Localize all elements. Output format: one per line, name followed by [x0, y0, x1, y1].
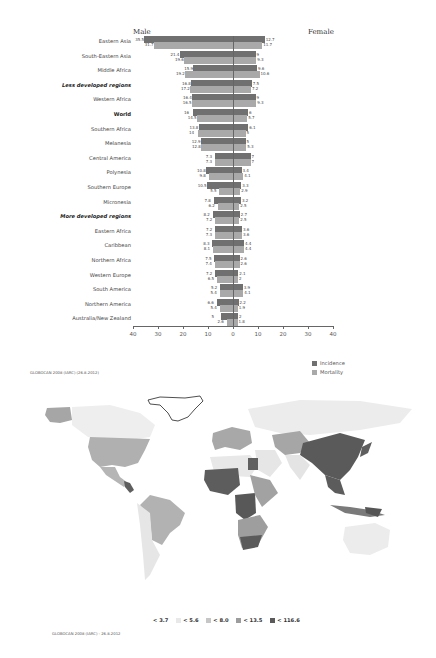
- x-tick-label: 10: [198, 331, 218, 337]
- map-legend: < 3.7 < 5.6 < 8.0 < 13.5 < 116.6: [146, 617, 300, 623]
- west-africa-shape: [204, 468, 240, 495]
- x-tick-label: 0: [223, 331, 243, 337]
- incidence-swatch-icon: [312, 361, 317, 366]
- female-mortality-value: 1.9: [239, 304, 245, 311]
- category-label: Western Africa: [93, 96, 131, 102]
- female-mortality-bar: [233, 86, 251, 93]
- russia-shape: [248, 400, 412, 435]
- category-label: More developed regions: [60, 213, 131, 219]
- male-mortality-bar: [184, 57, 233, 64]
- x-tick-label: 40: [323, 331, 343, 337]
- female-mortality-value: 4.1: [244, 289, 250, 296]
- pyramid-legend: Incidence Mortality: [312, 360, 345, 378]
- female-mortality-value: 9.3: [257, 56, 263, 63]
- mortality-swatch-icon: [312, 370, 317, 375]
- male-mortality-bar: [209, 173, 234, 180]
- female-mortality-value: 4.1: [244, 172, 250, 179]
- male-incidence-value: 35.5: [135, 36, 144, 43]
- male-mortality-bar: [192, 100, 233, 107]
- legend-swatch-2-icon: [176, 618, 181, 623]
- world-choropleth-map: [0, 395, 436, 600]
- male-label: Male: [133, 28, 151, 36]
- female-mortality-bar: [233, 42, 262, 49]
- category-label: World: [114, 111, 131, 117]
- category-label: Central America: [89, 155, 131, 161]
- male-mortality-value: 19.2: [176, 70, 185, 77]
- canada-shape: [72, 405, 155, 440]
- female-mortality-bar: [233, 144, 246, 151]
- central-america-shape: [124, 481, 134, 493]
- female-mortality-value: 2.9: [241, 187, 247, 194]
- category-label: Less developed regions: [62, 82, 131, 88]
- female-mortality-bar: [233, 246, 244, 253]
- female-mortality-value: 7: [252, 158, 255, 165]
- female-mortality-bar: [233, 173, 243, 180]
- male-mortality-value: 7.3: [206, 231, 212, 238]
- female-mortality-bar: [233, 188, 240, 195]
- category-label: Northern Africa: [92, 257, 131, 263]
- female-mortality-value: 2.6: [241, 260, 247, 267]
- female-mortality-value: 10.6: [261, 70, 270, 77]
- x-tick: [283, 326, 284, 329]
- category-label: South-Eastern Asia: [82, 53, 131, 59]
- female-mortality-value: 4.4: [245, 245, 251, 252]
- male-mortality-value: 17.2: [181, 85, 190, 92]
- male-mortality-value: 7.2: [206, 216, 212, 223]
- male-mortality-value: 14: [189, 129, 194, 136]
- south-africa-shape: [240, 535, 262, 550]
- male-mortality-bar: [220, 290, 234, 297]
- female-mortality-bar: [233, 71, 260, 78]
- male-mortality-value: 19.6: [175, 56, 184, 63]
- female-mortality-value: 9.3: [257, 99, 263, 106]
- zero-axis-line: [233, 36, 234, 327]
- male-mortality-bar: [215, 217, 233, 224]
- x-tick: [183, 326, 184, 329]
- female-label: Female: [308, 28, 334, 36]
- x-tick: [308, 326, 309, 329]
- legend-swatch-3-icon: [206, 618, 211, 623]
- female-mortality-value: 3.6: [243, 231, 249, 238]
- category-label: Southern Europe: [88, 184, 132, 190]
- female-mortality-value: 5.7: [248, 114, 254, 121]
- category-label: Eastern Africa: [95, 228, 131, 234]
- female-mortality-value: 1.8: [239, 318, 245, 325]
- category-label: Australia/New Zealand: [72, 315, 131, 321]
- legend-swatch-1-icon: [146, 618, 151, 623]
- male-mortality-value: 2.6: [218, 318, 224, 325]
- male-mortality-value: 5.5: [210, 187, 216, 194]
- usa-shape: [88, 437, 150, 467]
- female-incidence-value: 6.1: [249, 124, 255, 131]
- category-label: Southern Africa: [91, 126, 131, 132]
- x-tick: [158, 326, 159, 329]
- male-mortality-value: 12.8: [192, 143, 201, 150]
- male-mortality-bar: [219, 188, 233, 195]
- pyramid-credit: GLOBOCAN 2008 (IARC) (26.8.2012): [30, 370, 99, 375]
- male-mortality-bar: [198, 130, 233, 137]
- category-label: Northern America: [85, 301, 131, 307]
- category-label: Middle Africa: [97, 67, 131, 73]
- category-label: Melanesia: [105, 140, 131, 146]
- female-mortality-value: 5: [247, 129, 250, 136]
- female-mortality-bar: [233, 100, 256, 107]
- female-mortality-value: 7.2: [252, 85, 258, 92]
- male-mortality-bar: [213, 246, 233, 253]
- male-mortality-value: 14.5: [188, 114, 197, 121]
- middle-east-shape: [255, 450, 282, 477]
- male-mortality-value: 8.1: [204, 245, 210, 252]
- map-credit: GLOBOCAN 2008 (IARC) - 26.8.2012: [52, 631, 121, 636]
- female-mortality-value: 2.5: [240, 216, 246, 223]
- male-mortality-bar: [215, 159, 233, 166]
- male-mortality-value: 7.3: [206, 158, 212, 165]
- china-shape: [300, 433, 365, 480]
- male-incidence-value: 5: [212, 313, 215, 320]
- female-mortality-value: 2.5: [240, 202, 246, 209]
- male-mortality-value: 31.7: [145, 41, 154, 48]
- x-tick: [233, 326, 234, 329]
- male-mortality-bar: [215, 261, 234, 268]
- female-mortality-bar: [233, 57, 256, 64]
- x-tick-label: 20: [173, 331, 193, 337]
- female-mortality-bar: [233, 290, 243, 297]
- male-mortality-bar: [197, 115, 233, 122]
- male-mortality-bar: [218, 203, 234, 210]
- male-mortality-bar: [190, 86, 233, 93]
